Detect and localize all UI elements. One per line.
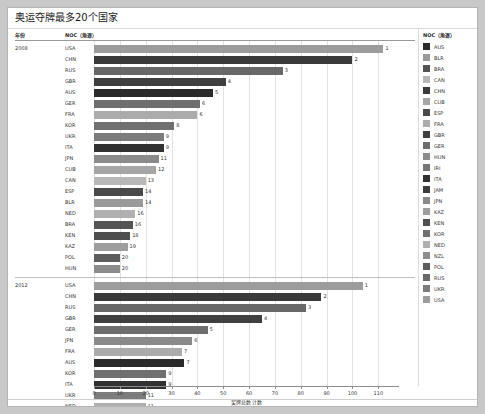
- bar[interactable]: [94, 199, 143, 207]
- table-row[interactable]: GBR4: [8, 76, 478, 87]
- legend-item-aus[interactable]: AUS: [421, 41, 478, 52]
- table-row[interactable]: AUS5: [8, 87, 478, 98]
- table-row[interactable]: CUB12: [8, 164, 478, 175]
- bar[interactable]: [94, 348, 182, 356]
- bar[interactable]: [94, 155, 159, 163]
- legend-item-ita[interactable]: ITA: [421, 173, 478, 184]
- table-row[interactable]: CAN13: [8, 175, 478, 186]
- legend-item-kaz[interactable]: KAZ: [421, 206, 478, 217]
- bar[interactable]: [94, 188, 143, 196]
- legend-item-bra[interactable]: BRA: [421, 63, 478, 74]
- legend-item-nzl[interactable]: NZL: [421, 250, 478, 261]
- table-row[interactable]: KEN18: [8, 230, 478, 241]
- bar[interactable]: [94, 78, 226, 86]
- bar[interactable]: [94, 221, 133, 229]
- noc-label: FRA: [65, 111, 89, 117]
- bar[interactable]: [94, 177, 146, 185]
- table-row[interactable]: GER5: [8, 324, 478, 335]
- legend-item-chn[interactable]: CHN: [421, 85, 478, 96]
- legend-item-ger[interactable]: GER: [421, 140, 478, 151]
- noc-label: RUS: [65, 304, 89, 310]
- table-row[interactable]: BRA16: [8, 219, 478, 230]
- table-row[interactable]: POL20: [8, 252, 478, 263]
- legend-divider: [418, 29, 419, 386]
- legend-item-cub[interactable]: CUB: [421, 96, 478, 107]
- table-row[interactable]: KOR9: [8, 368, 478, 379]
- table-row[interactable]: RUS3: [8, 65, 478, 76]
- legend-item-kor[interactable]: KOR: [421, 228, 478, 239]
- legend-item-label: NZL: [434, 253, 444, 259]
- table-row[interactable]: USA1: [8, 43, 478, 54]
- legend-item-ken[interactable]: KEN: [421, 217, 478, 228]
- bar[interactable]: [94, 232, 130, 240]
- bar[interactable]: [94, 337, 192, 345]
- bar[interactable]: [94, 144, 164, 152]
- legend-item-jam[interactable]: JAM: [421, 184, 478, 195]
- bar[interactable]: [94, 370, 166, 378]
- table-row[interactable]: KAZ19: [8, 241, 478, 252]
- legend-item-hun[interactable]: HUN: [421, 151, 478, 162]
- legend-item-ned[interactable]: NED: [421, 239, 478, 250]
- legend-swatch-icon: [423, 252, 430, 259]
- legend-item-ukr[interactable]: UKR: [421, 283, 478, 294]
- table-row[interactable]: HUN20: [8, 263, 478, 274]
- bar-value-label: 16: [135, 221, 141, 227]
- legend-item-label: GBR: [434, 132, 445, 138]
- table-row[interactable]: USA1: [8, 280, 478, 291]
- bar[interactable]: [94, 265, 120, 273]
- bar[interactable]: [94, 210, 135, 218]
- legend-swatch-icon: [423, 230, 430, 237]
- bar[interactable]: [94, 293, 321, 301]
- bar[interactable]: [94, 133, 164, 141]
- bar[interactable]: [94, 166, 156, 174]
- table-row[interactable]: JPN6: [8, 335, 478, 346]
- bar[interactable]: [94, 67, 283, 75]
- table-row[interactable]: FRA6: [8, 109, 478, 120]
- bar[interactable]: [94, 304, 306, 312]
- legend-item-fra[interactable]: FRA: [421, 118, 478, 129]
- legend-item-usa[interactable]: USA: [421, 294, 478, 305]
- table-row[interactable]: NED16: [8, 208, 478, 219]
- bar[interactable]: [94, 100, 200, 108]
- table-row[interactable]: ITA9: [8, 142, 478, 153]
- bar[interactable]: [94, 359, 184, 367]
- table-row[interactable]: CHN2: [8, 54, 478, 65]
- bar[interactable]: [94, 45, 383, 53]
- legend-item-gbr[interactable]: GBR: [421, 129, 478, 140]
- table-row[interactable]: FRA7: [8, 346, 478, 357]
- legend-item-pol[interactable]: POL: [421, 261, 478, 272]
- bar[interactable]: [94, 243, 128, 251]
- bar[interactable]: [94, 254, 120, 262]
- legend-item-label: BRA: [434, 66, 444, 72]
- legend: NOC（角逐） AUSBLRBRACANCHNCUBESPFRAGBRGERHU…: [421, 29, 478, 305]
- bar[interactable]: [94, 122, 174, 130]
- table-row[interactable]: AUS7: [8, 357, 478, 368]
- panel-separator: [15, 277, 415, 278]
- legend-item-rus[interactable]: RUS: [421, 272, 478, 283]
- bar[interactable]: [94, 315, 262, 323]
- table-row[interactable]: CHN2: [8, 291, 478, 302]
- bar[interactable]: [94, 111, 197, 119]
- legend-item-blr[interactable]: BLR: [421, 52, 478, 63]
- bar-value-label: 3: [285, 67, 288, 73]
- noc-label: HUN: [65, 265, 89, 271]
- legend-item-esp[interactable]: ESP: [421, 107, 478, 118]
- bar[interactable]: [94, 326, 208, 334]
- legend-item-jpn[interactable]: JPN: [421, 195, 478, 206]
- bar[interactable]: [94, 56, 352, 64]
- table-row[interactable]: UKR9: [8, 131, 478, 142]
- bar-value-label: 3: [308, 304, 311, 310]
- table-row[interactable]: BLR14: [8, 197, 478, 208]
- legend-item-can[interactable]: CAN: [421, 74, 478, 85]
- bar[interactable]: [94, 89, 213, 97]
- table-row[interactable]: JPN11: [8, 153, 478, 164]
- table-row[interactable]: ESP14: [8, 186, 478, 197]
- axis-tick: [275, 386, 276, 389]
- table-row[interactable]: RUS3: [8, 302, 478, 313]
- table-row[interactable]: GBR4: [8, 313, 478, 324]
- bar[interactable]: [94, 282, 363, 290]
- legend-item-iri[interactable]: IRI: [421, 162, 478, 173]
- table-row[interactable]: KOR8: [8, 120, 478, 131]
- bar-value-label: 11: [161, 155, 167, 161]
- table-row[interactable]: GER6: [8, 98, 478, 109]
